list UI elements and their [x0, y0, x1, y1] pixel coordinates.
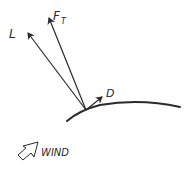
total-force-arrow — [49, 18, 86, 110]
drag-label: D — [106, 87, 114, 100]
total-force-subscript: T — [61, 17, 67, 26]
drag-arrow — [86, 97, 102, 110]
wind-arrow-icon — [18, 142, 38, 160]
lift-label: L — [9, 27, 16, 41]
force-diagram: L F T D WIND — [0, 0, 191, 173]
total-force-label: F — [53, 9, 61, 23]
lift-arrow — [28, 33, 86, 110]
wind-label: WIND — [41, 147, 69, 158]
